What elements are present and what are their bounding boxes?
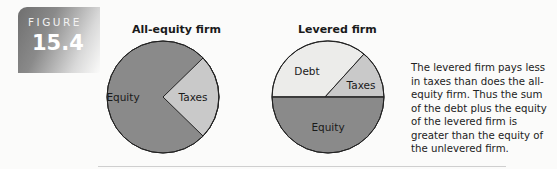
debt-label: Debt [294, 65, 319, 77]
levered-equity-label: Equity [311, 121, 344, 133]
levered-pie: Debt Taxes Equity [272, 41, 384, 153]
levered-taxes-label: Taxes [346, 79, 376, 91]
equity-label: Equity [106, 91, 139, 103]
divider [98, 166, 506, 167]
all-equity-pie: Equity Taxes [106, 41, 219, 153]
taxes-label: Taxes [178, 91, 208, 103]
figure-description: The levered firm pays less in taxes than… [411, 61, 551, 156]
